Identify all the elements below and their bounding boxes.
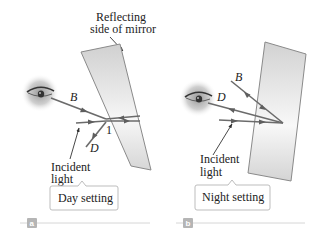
- incident-label-line2: light: [200, 165, 223, 179]
- ray-b-arrow: [80, 108, 88, 113]
- panel-a-day-setting: Reflecting side of mirror B D 1: [20, 10, 156, 228]
- panel-b-tag-label: b: [186, 219, 191, 228]
- incident-pointer: [70, 128, 79, 159]
- day-setting-label: Day setting: [58, 191, 113, 205]
- mirror-wedge: [248, 42, 306, 181]
- ray-b-label: B: [235, 70, 243, 84]
- eye-icon: [179, 79, 217, 117]
- incident-pointer: [213, 124, 232, 155]
- eye-icon: [21, 74, 59, 112]
- ray-d-label: D: [89, 141, 99, 155]
- panel-a-tag-label: a: [30, 219, 35, 228]
- rearview-mirror-diagram: Reflecting side of mirror B D 1: [0, 0, 325, 244]
- point-label-1: 1: [106, 123, 112, 137]
- ray-b-label: B: [70, 90, 78, 104]
- ray-d-label: D: [216, 90, 226, 104]
- incident-label-line1: Incident: [200, 152, 240, 166]
- incident-label-line2: light: [51, 172, 74, 186]
- night-setting-label: Night setting: [202, 190, 264, 204]
- panel-b-night-setting: D B Incident light Night setting b: [176, 42, 306, 228]
- mirror-label-line2: side of mirror: [90, 22, 156, 36]
- ray-b: [51, 98, 106, 119]
- night-setting-callout: Night setting: [195, 180, 270, 210]
